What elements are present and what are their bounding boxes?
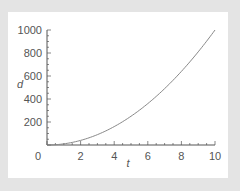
x-tick-label: 0 — [35, 150, 41, 162]
y-tick-label: 1000 — [18, 24, 42, 36]
x-tick-label: 6 — [145, 150, 151, 162]
x-tick-label: 10 — [209, 150, 221, 162]
y-tick-label: 600 — [24, 70, 42, 82]
y-tick-label: 800 — [24, 47, 42, 59]
x-tick-label: 8 — [178, 150, 184, 162]
y-tick-label: 400 — [24, 93, 42, 105]
y-tick-label: 200 — [24, 116, 42, 128]
y-axis-label: d — [17, 78, 24, 90]
x-axis-label: t — [126, 157, 130, 169]
axes — [47, 30, 215, 145]
line-chart: 02468102004006008001000 t d — [0, 0, 240, 191]
x-tick-label: 2 — [78, 150, 84, 162]
data-line — [47, 30, 215, 145]
x-tick-label: 4 — [111, 150, 117, 162]
ticks — [47, 30, 215, 145]
